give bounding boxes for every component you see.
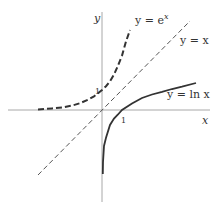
exp-label: y = ex (134, 12, 169, 27)
x-tick-1: 1 (121, 116, 126, 125)
exp-curve (38, 30, 130, 109)
exp-label-exponent: x (164, 12, 169, 21)
exp-label-base: y = e (134, 14, 164, 27)
function-graph: y x 1 1 y = ex y = x y = ln x (0, 0, 223, 209)
ln-label: y = ln x (166, 88, 211, 101)
identity-label: y = x (179, 34, 209, 47)
x-axis-label: x (202, 114, 209, 127)
y-axis-label: y (93, 12, 101, 25)
y-tick-1: 1 (95, 87, 100, 96)
